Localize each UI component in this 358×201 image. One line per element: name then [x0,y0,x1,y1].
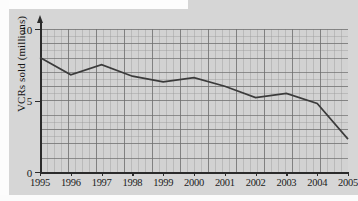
x-tick-label: 1999 [153,177,173,188]
vcrs-sold-polyline [40,58,348,140]
x-tick-label: 2000 [184,177,204,188]
x-tick-label: 2002 [246,177,266,188]
x-tick-label: 2005 [338,177,358,188]
x-tick-1999 [163,172,164,176]
x-tick-label: 1998 [122,177,142,188]
x-tick-2001 [225,172,226,176]
x-tick-label: 2001 [215,177,235,188]
page-margin-left [0,0,9,201]
page-margin-bottom [0,195,358,201]
y-tick-label: 5 [27,95,32,107]
y-axis-arrow-icon [37,15,43,23]
x-tick-label: 1995 [30,177,50,188]
line-chart-figure: 1050 19951996199719981999200020012002200… [0,0,358,201]
x-tick-1995 [40,172,41,176]
x-tick-label: 1997 [92,177,112,188]
x-tick-1996 [71,172,72,176]
x-tick-label: 2004 [307,177,327,188]
x-tick-2004 [317,172,318,176]
x-tick-2005 [348,172,349,176]
data-series-line [40,29,348,172]
x-tick-2002 [256,172,257,176]
x-tick-2003 [286,172,287,176]
page-margin-top [0,0,188,9]
x-tick-1997 [102,172,103,176]
y-axis-title: VCRs sold (millions) [15,9,27,119]
x-tick-2000 [194,172,195,176]
x-tick-label: 2003 [276,177,296,188]
x-tick-1998 [132,172,133,176]
x-tick-label: 1996 [61,177,81,188]
